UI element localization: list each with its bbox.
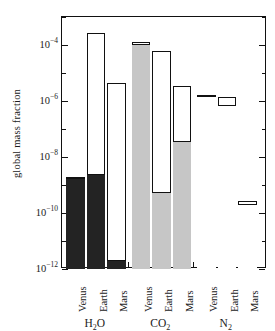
y-axis-minor-tick <box>62 129 66 130</box>
bar-filled-segment <box>152 192 171 269</box>
x-axis-category-label-n2-earth: Earth <box>230 289 241 312</box>
x-axis-category-label-h2o-venus: Venus <box>78 286 89 312</box>
y-axis-tick-label: 10−10 <box>36 208 58 219</box>
x-axis-group-label-n2: N2 <box>176 318 275 330</box>
y-axis-right-tick <box>259 269 265 270</box>
x-axis-category-label-h2o-mars: Mars <box>119 290 130 312</box>
bar-h2o-venus[interactable] <box>66 177 85 269</box>
bar-filled-segment <box>238 204 257 269</box>
y-axis-minor-tick <box>62 241 66 242</box>
bar-filled-segment <box>87 174 106 269</box>
y-axis-major-tick <box>62 269 68 270</box>
y-axis-minor-tick <box>62 17 66 18</box>
x-axis-group-tick <box>128 262 129 267</box>
y-axis-minor-tick <box>62 73 66 74</box>
bar-co2-mars[interactable] <box>173 86 192 269</box>
bar-h2o-earth[interactable] <box>87 33 106 269</box>
y-axis-tick-label: 10−6 <box>40 96 58 107</box>
bar-n2-venus[interactable] <box>197 95 216 269</box>
y-axis-major-tick <box>62 101 68 102</box>
y-axis-right-tick <box>259 101 265 102</box>
bar-h2o-mars[interactable] <box>107 83 126 269</box>
bar-n2-mars[interactable] <box>238 201 257 269</box>
y-axis-tick-label: 10−4 <box>40 40 58 51</box>
y-axis-minor-tick <box>62 185 66 186</box>
bar-filled-segment <box>66 178 85 269</box>
x-axis-group-tick <box>193 262 194 267</box>
y-axis-title: global mass fraction <box>11 59 22 209</box>
y-axis-tick-label: 10−12 <box>36 264 58 275</box>
x-axis-category-label-n2-mars: Mars <box>250 290 261 312</box>
y-axis-right-tick <box>262 73 266 74</box>
y-axis-right-tick <box>262 129 266 130</box>
bar-filled-segment <box>218 105 237 269</box>
chart-figure: global mass fraction 10−410−610−810−1010… <box>0 0 275 331</box>
x-axis-category-label-co2-venus: Venus <box>144 286 155 312</box>
y-axis-right-tick <box>262 185 266 186</box>
x-axis-category-label-n2-venus: Venus <box>209 286 220 312</box>
x-axis-category-label-h2o-earth: Earth <box>99 289 110 312</box>
bar-co2-venus[interactable] <box>132 42 151 269</box>
x-axis-category-label-co2-mars: Mars <box>185 290 196 312</box>
y-axis-right-tick <box>259 157 265 158</box>
y-axis-major-tick <box>62 157 68 158</box>
plot-area: 10−410−610−810−1010−12 <box>61 16 266 268</box>
plot-inner: 10−410−610−810−1010−12 <box>62 17 265 267</box>
bar-co2-earth[interactable] <box>152 51 171 269</box>
y-axis-major-tick <box>62 45 68 46</box>
x-axis-category-label-co2-earth: Earth <box>164 289 175 312</box>
y-axis-right-tick <box>259 45 265 46</box>
y-axis-tick-label: 10−8 <box>40 152 58 163</box>
bar-filled-segment <box>132 44 151 269</box>
bar-n2-earth[interactable] <box>218 97 237 269</box>
y-axis-right-tick <box>262 241 266 242</box>
y-axis-right-tick <box>259 213 265 214</box>
y-axis-right-tick <box>262 17 266 18</box>
bar-filled-segment <box>173 141 192 269</box>
bar-filled-segment <box>197 96 216 269</box>
bar-filled-segment <box>107 260 126 269</box>
